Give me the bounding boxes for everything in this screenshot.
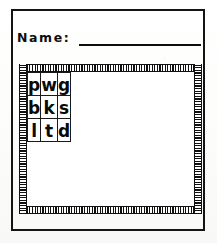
grid-cell-r1c3[interactable]: g (57, 73, 70, 96)
frame-hatch-left (19, 64, 27, 214)
grid-cell-r3c2[interactable]: t (41, 119, 58, 142)
frame-hatch-bottom (19, 206, 202, 214)
name-write-in-line[interactable] (79, 44, 201, 46)
cell-letter: s (58, 96, 70, 118)
name-field-row: Name: (17, 30, 202, 52)
cell-letter: k (41, 96, 57, 118)
cell-letter: b (28, 96, 40, 118)
grid-cell-r3c3[interactable]: d (57, 119, 70, 142)
cell-letter: t (41, 119, 57, 141)
cell-letter: d (58, 119, 70, 141)
grid-cell-r1c2[interactable]: w (41, 73, 58, 96)
table-row: l t d (28, 119, 71, 142)
cell-letter: g (58, 73, 70, 95)
letter-grid-frame: p w g b k s (19, 64, 202, 214)
table-row: b k s (28, 96, 71, 119)
grid-cell-r1c1[interactable]: p (28, 73, 41, 96)
letter-grid: p w g b k s (27, 72, 71, 142)
grid-cell-r2c3[interactable]: s (57, 96, 70, 119)
worksheet-page: Name: p w g (0, 0, 217, 243)
name-label: Name: (17, 30, 70, 46)
grid-cell-r3c1[interactable]: l (28, 119, 41, 142)
frame-hatch-right (194, 64, 202, 214)
cell-letter: l (28, 119, 40, 141)
cell-letter: p (28, 73, 40, 95)
table-row: p w g (28, 73, 71, 96)
frame-hatch-top (19, 64, 202, 72)
grid-cell-r2c2[interactable]: k (41, 96, 58, 119)
grid-cell-r2c1[interactable]: b (28, 96, 41, 119)
cell-letter: w (41, 73, 57, 95)
